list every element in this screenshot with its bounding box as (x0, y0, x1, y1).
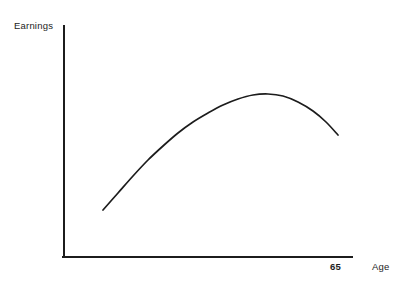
chart-plot-area (0, 0, 408, 284)
chart-figure: Earnings 65 Age (0, 0, 408, 284)
data-series-group (103, 94, 338, 210)
x-axis-tick-label-65: 65 (330, 262, 341, 272)
earnings-curve-line (103, 94, 338, 210)
axes-group (63, 26, 352, 257)
x-axis-label: Age (372, 262, 390, 272)
y-axis-label: Earnings (14, 21, 53, 31)
